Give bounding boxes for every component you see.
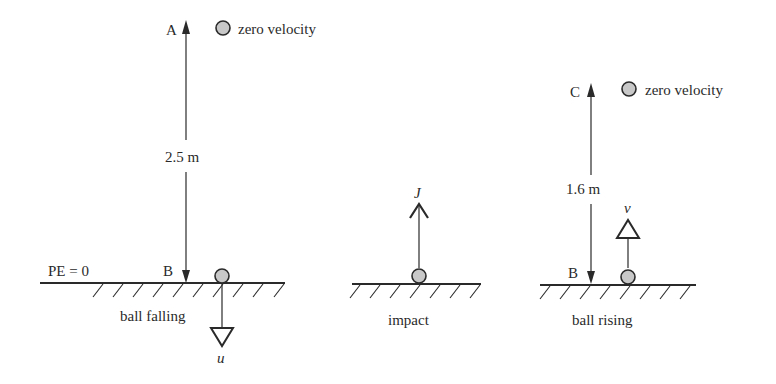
ball-icon [412,269,426,283]
point-b-label: B [568,265,578,281]
height-label: 1.6 m [566,181,601,197]
point-c-label: C [570,84,580,100]
velocity-u-label: u [217,350,225,366]
point-a-label: A [166,22,177,38]
velocity-v-label: v [624,200,631,216]
point-b-label: B [163,263,173,279]
caption-impact: impact [388,312,430,328]
caption-ball-falling: ball falling [120,308,186,324]
impulse-j-label: J [414,185,422,201]
ball-icon [621,270,635,284]
arrowhead-up-icon [182,20,190,34]
ground-hatching [350,285,480,298]
ball-icon [215,269,229,283]
ground-hatching [93,284,284,297]
ground-hatching [540,286,690,299]
height-label: 2.5 m [165,149,200,165]
arrowhead-down-icon [182,270,190,283]
pe-zero-label: PE = 0 [48,263,89,279]
panel-ball-rising: C zero velocity 1.6 m v B ball rising [540,82,723,328]
panel-ball-falling: A zero velocity 2.5 m PE = 0 B u ball fa… [40,20,316,366]
ball-bounce-diagram: A zero velocity 2.5 m PE = 0 B u ball fa… [0,0,776,384]
ball-top-icon [622,82,636,96]
panel-impact: J impact [350,185,481,328]
zero-velocity-caption: zero velocity [645,82,723,98]
zero-velocity-caption: zero velocity [238,21,316,37]
arrowhead-up-icon [587,83,595,97]
caption-ball-rising: ball rising [572,312,633,328]
open-arrowhead-up-icon [617,220,639,238]
arrowhead-down-icon [587,271,595,284]
open-arrowhead-down-icon [211,328,233,346]
ball-top-icon [216,21,230,35]
